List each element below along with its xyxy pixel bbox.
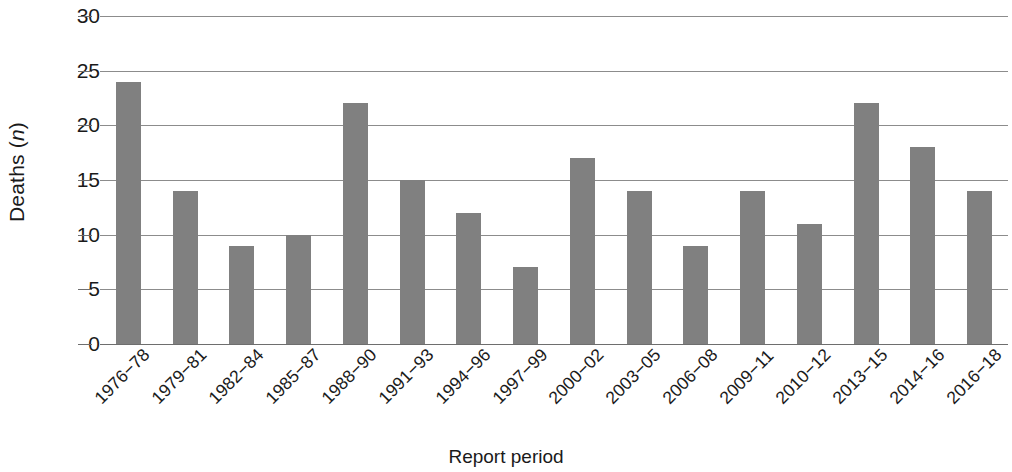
x-tick-label: 2003−05 <box>602 354 656 408</box>
bar[interactable] <box>456 213 481 344</box>
plot-area <box>100 16 1008 344</box>
x-tick-label: 2010−12 <box>772 354 826 408</box>
y-tick-mark <box>78 71 92 72</box>
bar[interactable] <box>854 103 879 344</box>
x-tick-label: 1997−99 <box>488 354 542 408</box>
x-tick-label: 2000−02 <box>545 354 599 408</box>
x-tick-label: 2006−08 <box>658 354 712 408</box>
y-axis-tick-marks <box>0 0 100 472</box>
x-tick-label: 1991−93 <box>375 354 429 408</box>
bar[interactable] <box>116 82 141 344</box>
y-tick-mark <box>78 235 92 236</box>
y-tick-mark <box>78 125 92 126</box>
x-tick-label: 1985−87 <box>261 354 315 408</box>
bar[interactable] <box>627 191 652 344</box>
x-tick-label: 1982−84 <box>204 354 258 408</box>
bar[interactable] <box>797 224 822 344</box>
gridline <box>100 16 1008 17</box>
chart-figure: Deaths (n) 051015202530 1976−781979−8119… <box>0 0 1012 472</box>
gridline <box>100 71 1008 72</box>
y-tick-mark <box>78 289 92 290</box>
y-tick-mark <box>78 16 92 17</box>
x-tick-label: 1979−81 <box>148 354 202 408</box>
bar[interactable] <box>173 191 198 344</box>
x-axis-title: Report period <box>0 446 1012 468</box>
x-tick-label: 2009−11 <box>715 354 769 408</box>
y-tick-mark <box>78 344 92 345</box>
bar[interactable] <box>286 235 311 344</box>
x-tick-label: 2014−16 <box>885 354 939 408</box>
bar[interactable] <box>740 191 765 344</box>
bar[interactable] <box>343 103 368 344</box>
x-tick-label: 1988−90 <box>318 354 372 408</box>
bar[interactable] <box>967 191 992 344</box>
x-tick-label: 2016−18 <box>942 354 996 408</box>
bar[interactable] <box>683 246 708 344</box>
bar[interactable] <box>570 158 595 344</box>
x-tick-label: 2013−15 <box>829 354 883 408</box>
bar[interactable] <box>229 246 254 344</box>
bar[interactable] <box>400 180 425 344</box>
bar[interactable] <box>513 267 538 344</box>
bar[interactable] <box>910 147 935 344</box>
x-axis-baseline <box>100 344 1008 345</box>
x-tick-label: 1994−96 <box>431 354 485 408</box>
y-tick-mark <box>78 180 92 181</box>
